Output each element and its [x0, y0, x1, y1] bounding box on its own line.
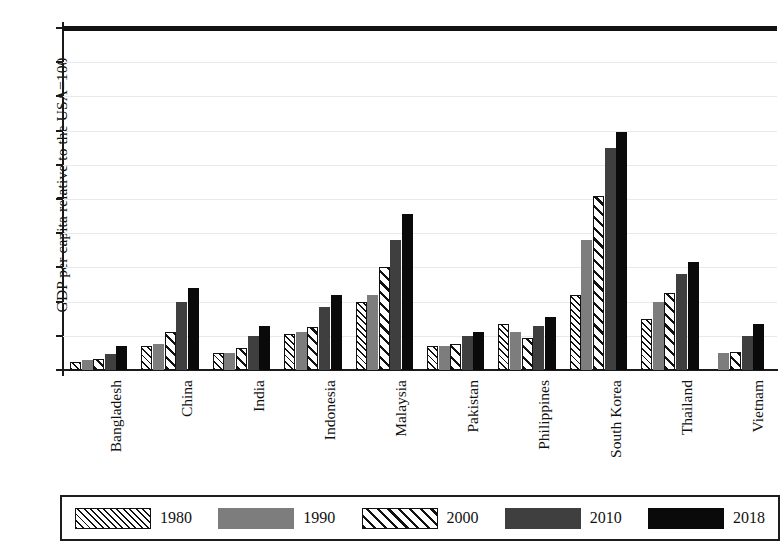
bar-thailand-1990 — [653, 302, 664, 370]
y-tick-mark — [56, 266, 63, 268]
bar-group — [284, 28, 341, 370]
bar-china-1990 — [153, 344, 164, 370]
category-label-china: China — [178, 376, 196, 486]
bar-group — [498, 28, 555, 370]
bar-malaysia-2018 — [402, 214, 413, 370]
category-label-india: India — [250, 376, 268, 486]
legend-label-1980: 1980 — [160, 509, 192, 527]
y-tick-label: 90 — [0, 51, 11, 68]
bar-india-2000 — [236, 348, 247, 370]
bar-philippines-1990 — [510, 332, 521, 370]
bar-philippines-2018 — [545, 317, 556, 370]
y-tick-mark — [56, 301, 63, 303]
y-tick-mark — [56, 61, 63, 63]
bar-indonesia-2000 — [307, 327, 318, 370]
bar-malaysia-2010 — [390, 240, 401, 370]
y-tick-label: 20 — [0, 291, 11, 308]
y-tick-mark — [56, 335, 63, 337]
bar-group — [641, 28, 698, 370]
y-tick-label: 0 — [0, 359, 11, 376]
bar-china-2000 — [165, 332, 176, 370]
bar-group — [356, 28, 413, 370]
y-tick-mark — [56, 198, 63, 200]
bar-india-2010 — [248, 336, 259, 370]
bar-vietnam-2000 — [730, 352, 741, 370]
bar-india-1990 — [224, 353, 235, 370]
bar-chart-figure: GDP per capita relative to the USA=100 0… — [0, 0, 783, 550]
bar-south-korea-2010 — [605, 148, 616, 370]
category-label-vietnam: Vietnam — [749, 376, 767, 486]
y-tick-label: 100 — [0, 17, 11, 34]
bar-indonesia-1980 — [284, 334, 295, 370]
legend-item-1980[interactable]: 1980 — [62, 508, 205, 529]
bar-group — [141, 28, 198, 370]
bar-india-1980 — [213, 353, 224, 370]
bar-group — [427, 28, 484, 370]
category-label-south-korea: South Korea — [607, 376, 625, 486]
bar-thailand-2010 — [676, 274, 687, 370]
y-tick-mark — [56, 95, 63, 97]
bar-philippines-2010 — [533, 326, 544, 370]
y-tick-label: 40 — [0, 222, 11, 239]
legend-item-2018[interactable]: 2018 — [635, 508, 778, 529]
bar-pakistan-2018 — [473, 332, 484, 370]
y-tick-mark — [56, 232, 63, 234]
bar-malaysia-1980 — [356, 302, 367, 370]
y-tick-mark — [56, 130, 63, 132]
bar-pakistan-2010 — [462, 336, 473, 370]
bar-south-korea-1990 — [581, 240, 592, 370]
plot-area — [63, 28, 777, 370]
legend-swatch-1980 — [75, 508, 151, 529]
category-label-bangladesh: Bangladesh — [107, 376, 125, 486]
bar-south-korea-2018 — [616, 132, 627, 370]
y-tick-label: 10 — [0, 325, 11, 342]
bar-bangladesh-2000 — [93, 359, 104, 370]
y-tick-label: 80 — [0, 85, 11, 102]
y-tick-label: 60 — [0, 154, 11, 171]
bar-pakistan-1980 — [427, 346, 438, 370]
bar-bangladesh-2010 — [105, 354, 116, 370]
bar-philippines-2000 — [522, 338, 533, 370]
y-tick-label: 30 — [0, 256, 11, 273]
bar-pakistan-1990 — [439, 346, 450, 370]
legend-item-2000[interactable]: 2000 — [348, 508, 491, 529]
legend-label-2000: 2000 — [447, 509, 479, 527]
bar-vietnam-2018 — [753, 324, 764, 370]
legend-swatch-1990 — [218, 508, 294, 529]
bar-indonesia-2010 — [319, 307, 330, 370]
legend-label-2010: 2010 — [590, 509, 622, 527]
bar-india-2018 — [259, 326, 270, 370]
y-tick-label: 70 — [0, 120, 11, 137]
bar-bangladesh-1980 — [70, 362, 81, 370]
legend-swatch-2010 — [505, 508, 581, 529]
bar-thailand-2018 — [688, 262, 699, 370]
y-tick-label: 50 — [0, 188, 11, 205]
bar-malaysia-2000 — [379, 267, 390, 370]
bar-china-2010 — [176, 302, 187, 370]
bar-group — [718, 28, 764, 370]
bar-group — [570, 28, 627, 370]
y-tick-mark — [56, 164, 63, 166]
bar-south-korea-2000 — [593, 196, 604, 370]
bar-pakistan-2000 — [450, 344, 461, 370]
legend-item-1990[interactable]: 1990 — [205, 508, 348, 529]
bar-group — [213, 28, 270, 370]
legend-item-2010[interactable]: 2010 — [492, 508, 635, 529]
legend-swatch-2018 — [648, 508, 724, 529]
y-tick-mark — [56, 369, 63, 371]
category-label-pakistan: Pakistan — [464, 376, 482, 486]
bar-vietnam-2010 — [742, 336, 753, 370]
bar-thailand-1980 — [641, 319, 652, 370]
category-label-indonesia: Indonesia — [321, 376, 339, 486]
bar-indonesia-1990 — [296, 332, 307, 370]
legend-label-2018: 2018 — [733, 509, 765, 527]
chart-legend: 19801990200020102018 — [60, 495, 780, 541]
bar-philippines-1980 — [498, 324, 509, 370]
category-label-thailand: Thailand — [678, 376, 696, 486]
bar-group — [70, 28, 127, 370]
bar-bangladesh-1990 — [82, 360, 93, 370]
bar-bangladesh-2018 — [116, 346, 127, 370]
legend-swatch-2000 — [362, 508, 438, 529]
category-label-malaysia: Malaysia — [392, 376, 410, 486]
bar-china-2018 — [188, 288, 199, 370]
